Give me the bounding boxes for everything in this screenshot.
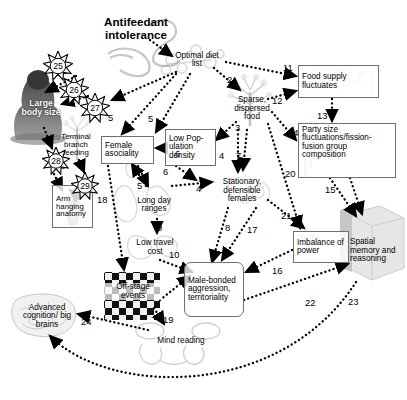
burst-marker-29[interactable]: 29 <box>71 172 99 200</box>
node-large-body-size[interactable]: Large body size <box>21 88 61 128</box>
diagram-canvas: Antifeedant intolerance Optimal diet lis… <box>0 0 407 400</box>
edge-label-13-16: 13 <box>317 110 327 121</box>
node-food-supply-fluctuates[interactable]: Food supply fluctuates <box>298 65 379 98</box>
edge-label-20-23: 20 <box>285 168 295 179</box>
node-male-bonded-aggression[interactable]: Male-bonded aggression, territoriality <box>184 262 244 317</box>
edge-label-16-19: 16 <box>272 265 282 276</box>
edge-label-7-10: 7 <box>236 150 241 161</box>
edge-label-6-9: 6 <box>163 166 168 177</box>
node-mind-reading[interactable]: Mind reading <box>155 327 207 356</box>
node-offstage-events-label: Off-stage events <box>104 283 162 300</box>
node-spatial-memory-reasoning-label: Spatial memory and reasoning <box>350 238 402 263</box>
edge-18 <box>108 166 124 270</box>
node-spatial-memory-reasoning[interactable]: Spatial memory and reasoning <box>350 222 402 280</box>
edge-label-5-7: 5 <box>137 180 142 191</box>
edge-1 <box>150 40 172 56</box>
node-sparse-dispersed-food-label: Sparse, dispersed food <box>226 96 278 121</box>
node-sparse-dispersed-food[interactable]: Sparse, dispersed food <box>226 92 278 126</box>
node-stationary-defensible-females-label: Stationary, defensible females <box>214 178 270 203</box>
node-offstage-events[interactable]: Off-stage events <box>104 275 162 308</box>
edge-label-1-0: 1 <box>163 44 168 55</box>
node-long-day-ranges-label: Long day ranges <box>127 197 181 214</box>
burst-marker-27[interactable]: 27 <box>80 93 110 123</box>
burst-marker-label-26: 26 <box>69 85 79 95</box>
node-female-asociality[interactable]: Female asociality <box>101 136 154 164</box>
burst-marker-label-27: 27 <box>90 103 100 113</box>
edge-label-23-26: 23 <box>348 296 358 307</box>
node-male-bonded-aggression-label: Male-bonded aggression, territoriality <box>188 277 240 302</box>
node-optimal-diet-label: Optimal diet list <box>170 52 224 69</box>
edge-label-3-2: 3 <box>235 122 240 133</box>
edge-label-17-20: 17 <box>247 224 257 235</box>
burst-marker-28[interactable]: 28 <box>42 147 70 175</box>
node-food-supply-fluctuates-label: Food supply fluctuates <box>302 73 375 90</box>
edge-label-21-24: 21 <box>281 210 291 221</box>
edge-label-8-11: 8 <box>225 222 230 233</box>
edge-label-24-27: 24 <box>81 316 91 327</box>
edge-label-5-6: 5 <box>148 113 153 124</box>
edge-4b <box>172 182 212 186</box>
edge-5b <box>156 74 190 132</box>
edge-27-in <box>112 72 176 100</box>
edge-label-14-17: 14 <box>288 127 298 138</box>
edge-label-10-13: 10 <box>169 249 179 260</box>
node-mind-reading-label: Mind reading <box>157 337 204 345</box>
node-imbalance-of-power[interactable]: Imbalance of power <box>293 231 349 263</box>
node-female-asociality-label: Female asociality <box>105 142 150 159</box>
edge-label-2-1: 2 <box>227 74 232 85</box>
edge-label-19-22: 19 <box>163 314 173 325</box>
node-party-size-fluctuations[interactable]: Party size fluctuations/fission-fusion g… <box>298 123 396 178</box>
node-low-population-density[interactable]: Low Pop- ulation density <box>165 129 216 166</box>
node-large-body-size-label: Large body size <box>21 99 61 117</box>
edge-label-11-14: 11 <box>283 62 293 73</box>
edge-label-6-8: 6 <box>175 148 180 159</box>
node-advanced-cognition[interactable]: Advanced cognition/ big brains <box>17 297 77 336</box>
node-stationary-defensible-females[interactable]: Stationary, defensible females <box>214 174 270 208</box>
edge-label-4-3: 4 <box>219 150 224 161</box>
edge-22 <box>244 264 348 300</box>
edge-15b <box>350 178 362 214</box>
node-long-day-ranges[interactable]: Long day ranges <box>127 190 181 220</box>
burst-marker-label-28: 28 <box>51 156 61 166</box>
edge-label-15-18: 15 <box>325 184 335 195</box>
page-title: Antifeedant intolerance <box>88 16 184 42</box>
node-optimal-diet[interactable]: Optimal diet list <box>170 48 224 72</box>
edge-label-22-25: 22 <box>305 297 315 308</box>
edge-7 <box>243 130 247 170</box>
burst-marker-label-25: 25 <box>53 61 63 71</box>
node-advanced-cognition-label: Advanced cognition/ big brains <box>17 304 77 329</box>
edge-16 <box>246 250 292 272</box>
edge-label-4-4: 4 <box>196 183 201 194</box>
edge-label-12-15: 12 <box>272 95 282 106</box>
edge-label-9-12: 9 <box>157 222 162 233</box>
edge-5a <box>122 74 176 134</box>
node-imbalance-of-power-label: Imbalance of power <box>297 239 345 256</box>
edge-6b <box>176 166 196 180</box>
node-party-size-fluctuations-label: Party size fluctuations/fission-fusion g… <box>302 126 392 159</box>
burst-marker-label-29: 29 <box>80 181 90 191</box>
edge-28-in <box>44 128 52 148</box>
